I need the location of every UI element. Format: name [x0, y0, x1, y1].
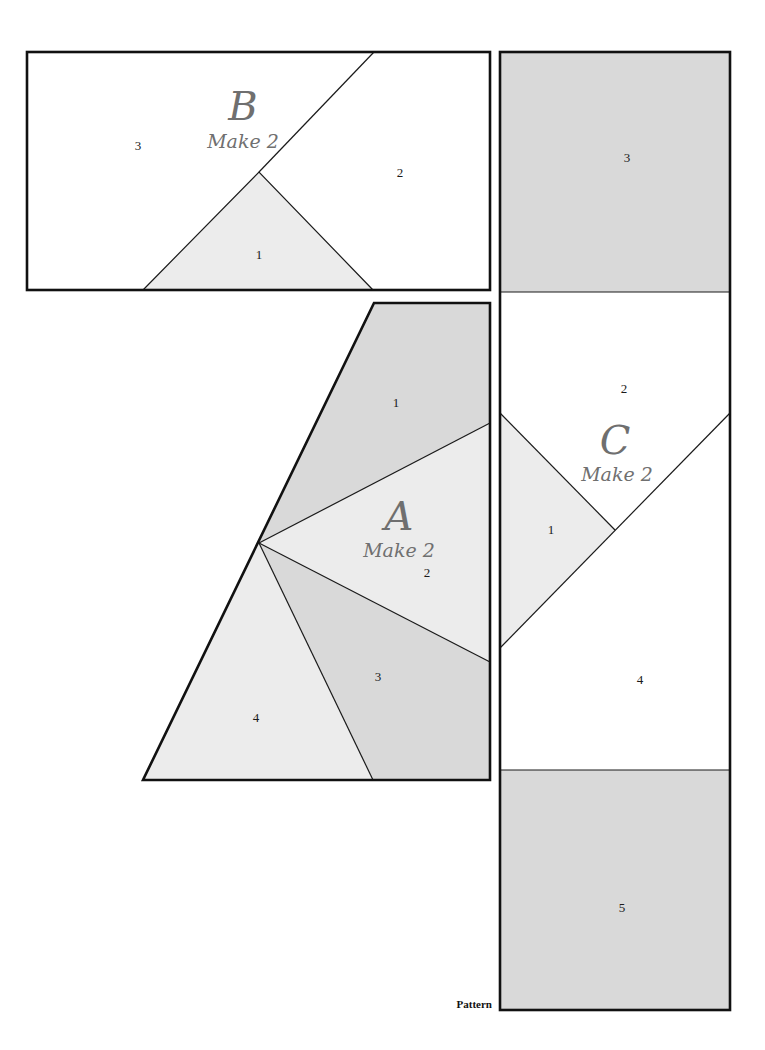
- block-b-make-label: Make 2: [206, 130, 279, 152]
- block-c-piece-5-number: 5: [619, 900, 626, 915]
- block-b-piece-2-number: 2: [397, 165, 404, 180]
- block-b: B Make 2 3 2 1: [27, 52, 490, 290]
- pattern-footer-label: Pattern: [428, 998, 492, 1010]
- block-c-piece-5: [500, 770, 730, 1010]
- block-c-piece-3: [500, 52, 730, 292]
- block-c: C Make 2 3 2 1 4 5: [500, 52, 730, 1010]
- block-a-make-label: Make 2: [362, 539, 435, 561]
- block-b-piece-1-number: 1: [256, 247, 263, 262]
- block-c-make-label: Make 2: [580, 463, 653, 485]
- block-a: A Make 2 1 2 3 4: [143, 303, 490, 780]
- block-a-piece-1-number: 1: [393, 395, 400, 410]
- block-b-piece-3-number: 3: [135, 138, 142, 153]
- block-c-piece-4-number: 4: [637, 672, 644, 687]
- block-c-piece-3-number: 3: [624, 150, 631, 165]
- block-c-piece-1-number: 1: [548, 522, 555, 537]
- block-c-letter: C: [600, 417, 631, 463]
- block-a-letter: A: [381, 493, 414, 539]
- block-c-piece-2-number: 2: [621, 381, 628, 396]
- block-a-piece-2-number: 2: [424, 565, 431, 580]
- block-a-piece-3-number: 3: [375, 669, 382, 684]
- block-b-letter: B: [227, 83, 257, 129]
- block-a-piece-4-number: 4: [253, 710, 260, 725]
- quilt-pattern-sheet: B Make 2 3 2 1 A Make 2 1 2 3 4: [0, 0, 765, 1050]
